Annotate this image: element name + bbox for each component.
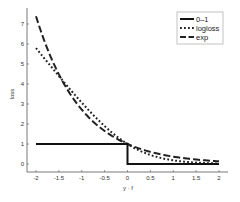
x-tick-label: -2	[33, 175, 39, 181]
x-tick-label: -1	[79, 175, 85, 181]
x-tick-label: 1.5	[192, 175, 201, 181]
y-tick-label: 2	[21, 121, 25, 127]
y-tick-label: 3	[21, 101, 25, 107]
y-tick-label: 7	[21, 21, 25, 27]
legend: 0–1 logloss exp	[177, 12, 223, 44]
x-tick-label: -0.5	[99, 175, 110, 181]
y-tick-label: 5	[21, 61, 25, 67]
x-tick-label: 2	[217, 175, 221, 181]
legend-label-exp: exp	[196, 33, 208, 42]
legend-label-zero-one: 0–1	[196, 15, 209, 24]
x-axis-label: y · f	[123, 185, 133, 191]
loss-chart: 01234567 -2-1.5-1-0.500.511.52 loss y · …	[0, 0, 240, 202]
y-tick-label: 1	[21, 141, 25, 147]
series-zero-one-line	[36, 144, 219, 164]
x-tick-label: 0	[126, 175, 130, 181]
y-tick-label: 4	[21, 81, 25, 87]
x-axis: -2-1.5-1-0.500.511.52	[27, 170, 228, 181]
y-axis: 01234567	[21, 8, 29, 172]
x-tick-label: -1.5	[54, 175, 65, 181]
y-tick-label: 6	[21, 41, 25, 47]
y-axis-label: loss	[9, 89, 15, 100]
y-tick-label: 0	[21, 161, 25, 167]
legend-label-logloss: logloss	[196, 24, 220, 33]
x-tick-label: 0.5	[146, 175, 155, 181]
x-tick-label: 1	[172, 175, 176, 181]
